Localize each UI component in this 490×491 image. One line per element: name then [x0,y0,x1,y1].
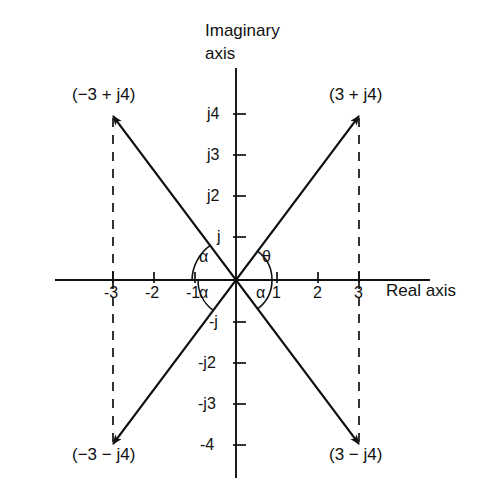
imaginary-axis-title-line2: axis [205,45,235,62]
imag-tick-label-j3: j3 [207,147,219,163]
imag-tick-label-j4: j4 [207,106,219,122]
imag-tick-label-neg-4: -4 [200,437,214,453]
argand-diagram-figure: Imaginary axis Real axis -3 -2 -1 1 2 3 … [0,0,490,491]
vector-lower-left [113,280,236,444]
point-label-upper-right: (3 + j4) [329,86,382,103]
argand-diagram-canvas [0,0,490,491]
point-label-lower-right: (3 − j4) [329,446,382,463]
point-label-lower-left: (−3 − j4) [72,446,135,463]
point-label-upper-left: (−3 + j4) [72,86,135,103]
real-tick-label-3: 3 [354,285,363,301]
angle-label-theta: θ [262,249,271,265]
angle-label-alpha-upper-left: α [199,249,208,265]
imag-tick-label-neg-j3: -j3 [198,396,216,412]
vector-upper-right [236,116,359,280]
vector-lower-right [236,280,359,444]
angle-label-alpha-lower-right: α [256,285,265,301]
imaginary-axis-title-line1: Imaginary [205,22,280,39]
imag-tick-label-j: j [217,229,221,245]
real-tick-label-1: 1 [272,285,281,301]
real-tick-label-neg2: -2 [145,285,159,301]
real-axis-title: Real axis [386,282,456,299]
imag-tick-label-neg-j: -j [209,314,218,330]
imag-tick-label-j2: j2 [207,188,219,204]
real-tick-label-neg3: -3 [104,285,118,301]
angle-label-alpha-lower-left: α [199,285,208,301]
real-tick-label-2: 2 [313,285,322,301]
imag-tick-label-neg-j2: -j2 [198,355,216,371]
